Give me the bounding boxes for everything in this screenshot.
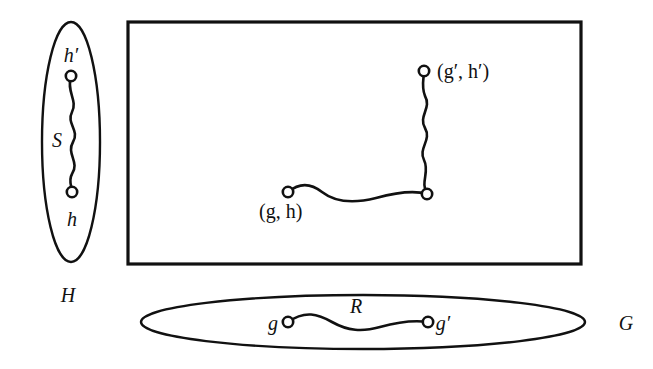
- set-g-label: G: [619, 312, 634, 334]
- path-r-label: R: [349, 295, 362, 317]
- node-g-label: g: [268, 312, 278, 335]
- node-h: [67, 187, 77, 197]
- node-g: [283, 317, 293, 327]
- path-s-label: S: [52, 129, 62, 151]
- node-h-prime: [66, 71, 76, 81]
- product-rectangle: [128, 22, 581, 264]
- node-h-label: h: [67, 208, 77, 230]
- node-gh-prime: [419, 66, 429, 76]
- node-corner: [422, 189, 432, 199]
- node-gh: [283, 187, 293, 197]
- node-g-prime: [423, 317, 433, 327]
- set-g-ellipse: [141, 295, 585, 349]
- product-space-figure: (g, h) (g′, h′) S h′ h H R g g′ G: [0, 0, 653, 369]
- node-gh-label: (g, h): [259, 200, 302, 223]
- node-h-prime-label: h′: [64, 44, 79, 66]
- node-g-prime-label: g′: [436, 312, 451, 335]
- node-gh-prime-label: (g′, h′): [437, 60, 489, 83]
- set-h-label: H: [60, 284, 77, 306]
- diagram-root: (g, h) (g′, h′) S h′ h H R g g′ G: [0, 0, 653, 369]
